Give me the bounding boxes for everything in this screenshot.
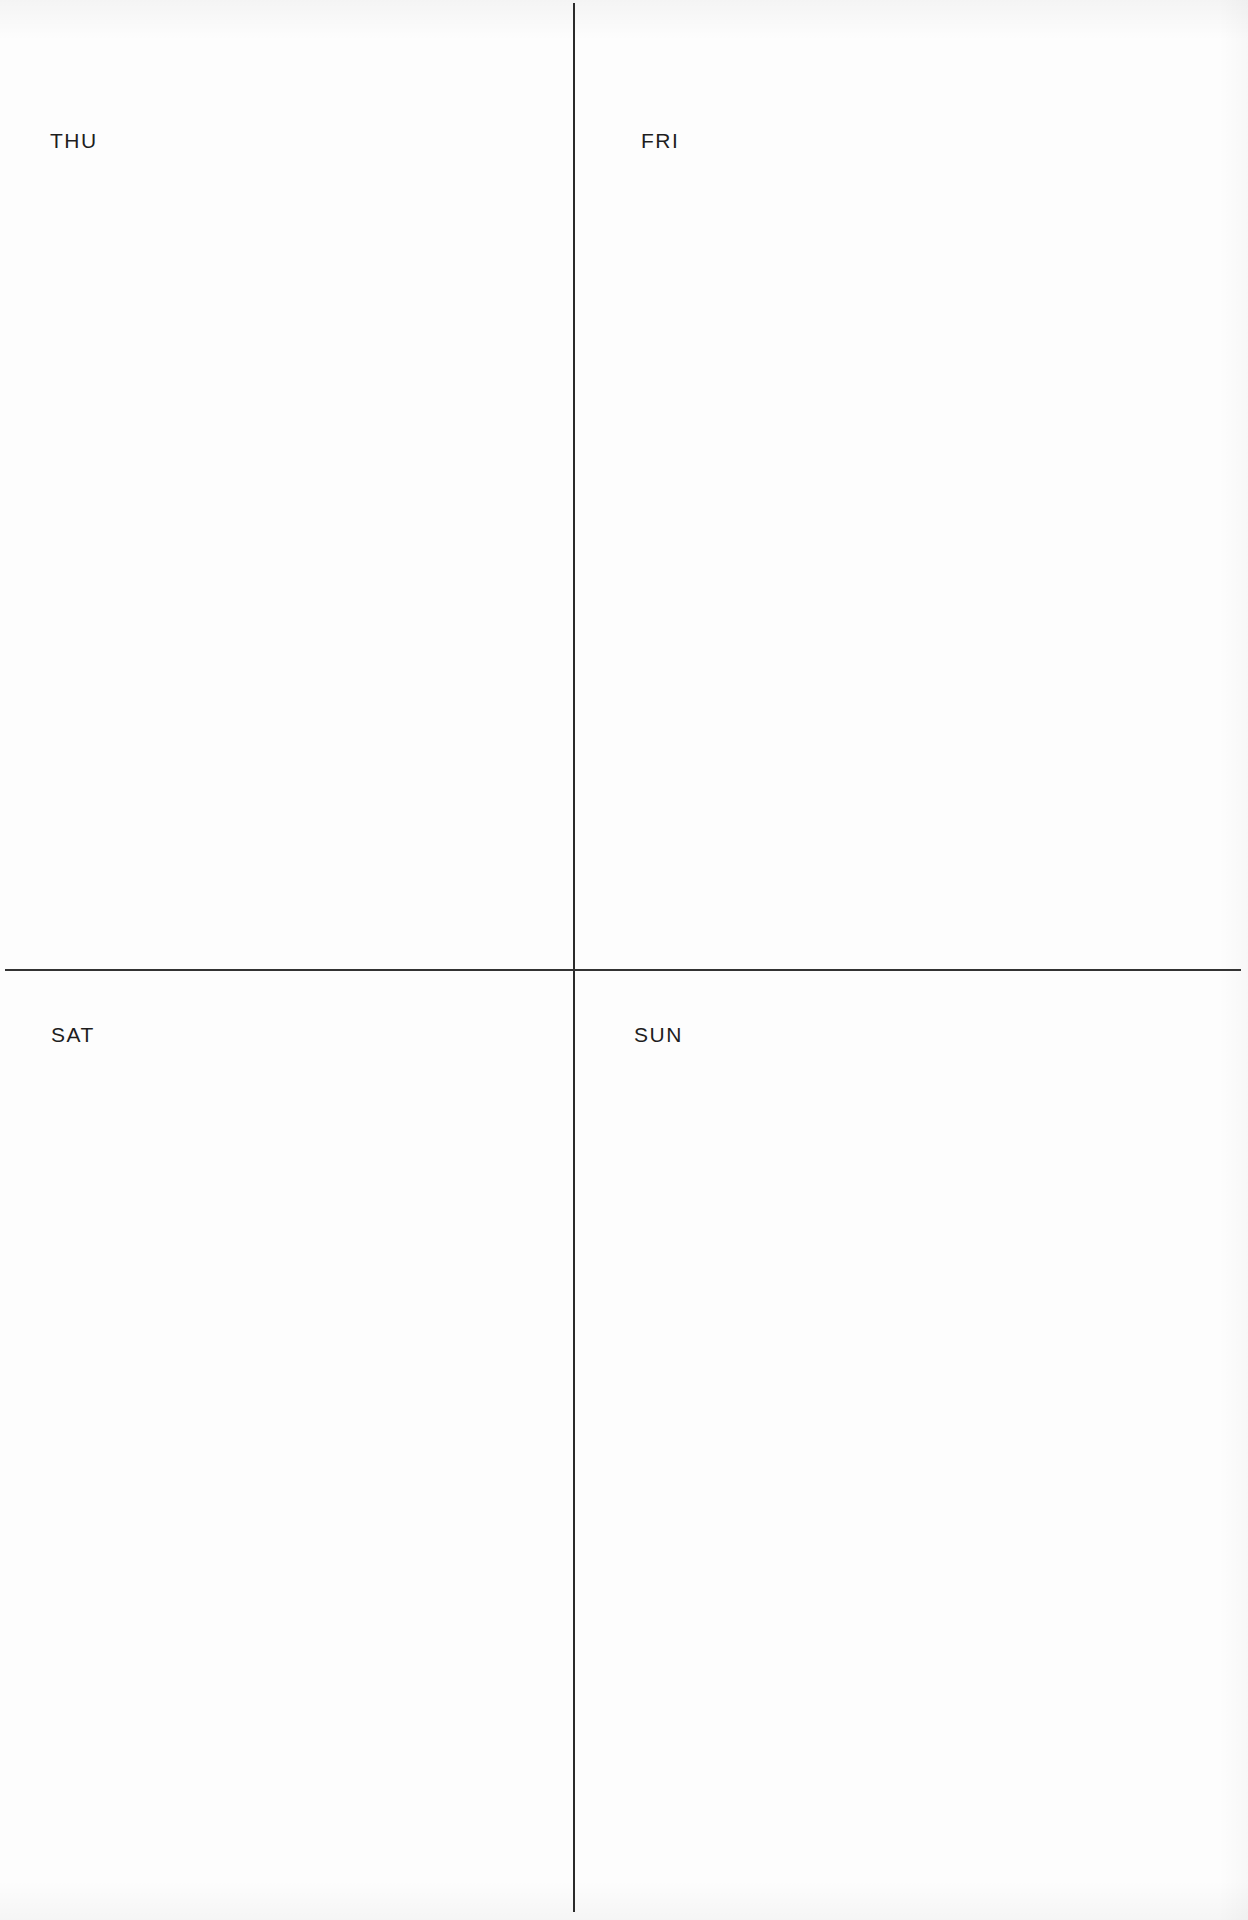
day-section-sunday: SUN	[575, 971, 1248, 1920]
day-section-friday: FRI	[575, 0, 1248, 969]
vertical-divider-line	[573, 3, 575, 1912]
day-section-thursday: THU	[0, 0, 573, 969]
horizontal-divider-line	[5, 969, 1241, 971]
day-label-friday: FRI	[641, 130, 679, 151]
day-label-saturday: SAT	[51, 1024, 95, 1045]
day-label-thursday: THU	[50, 130, 98, 151]
day-section-saturday: SAT	[0, 971, 573, 1920]
planner-page: THU FRI SAT SUN	[0, 0, 1248, 1920]
day-label-sunday: SUN	[634, 1024, 683, 1045]
